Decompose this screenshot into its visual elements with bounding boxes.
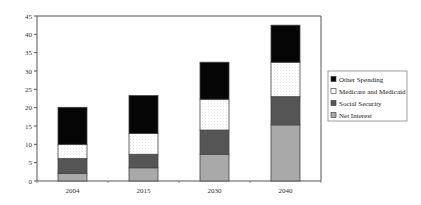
bar-segment-medicare-and-medicaid	[271, 62, 300, 96]
legend-swatch-other-spending	[331, 77, 336, 82]
bar-segment-social-security	[200, 130, 229, 154]
bar-segment-other-spending	[271, 25, 300, 62]
x-tick-label: 2040	[279, 187, 294, 195]
x-tick-label: 2004	[66, 187, 81, 195]
bar-segment-social-security	[271, 97, 300, 125]
y-tick-label: 30	[25, 68, 33, 76]
bar-segment-net-interest	[129, 168, 158, 181]
x-tick-label: 2030	[208, 187, 223, 195]
bar-segment-net-interest	[271, 125, 300, 181]
bar-stack-2015	[129, 96, 158, 181]
legend-label: Other Spending	[339, 76, 384, 84]
legend-label: Medicare and Medicaid	[339, 88, 406, 96]
bar-segment-medicare-and-medicaid	[200, 99, 229, 130]
legend-label: Net Interest	[339, 112, 372, 120]
bar-stack-2004	[58, 107, 87, 181]
bar-stack-2040	[271, 25, 300, 181]
bar-segment-medicare-and-medicaid	[58, 144, 87, 158]
legend-swatch-social-security	[331, 101, 336, 106]
legend-swatch-medicare-and-medicaid	[331, 89, 336, 94]
bar-segment-medicare-and-medicaid	[129, 133, 158, 154]
legend-swatch-net-interest	[331, 113, 336, 118]
y-tick-label: 40	[25, 31, 33, 39]
x-tick-label: 2015	[137, 187, 152, 195]
bar-segment-net-interest	[58, 173, 87, 181]
bar-segment-other-spending	[200, 62, 229, 99]
y-tick-label: 0	[29, 178, 33, 186]
y-tick-label: 25	[25, 86, 33, 94]
y-tick-label: 5	[29, 159, 33, 167]
bar-segment-social-security	[58, 159, 87, 174]
y-tick-label: 35	[25, 49, 33, 57]
bar-stack-2030	[200, 62, 229, 181]
stacked-bar-chart: 051015202530354045 2004201520302040 Othe…	[0, 0, 421, 205]
legend-label: Social Security	[339, 100, 382, 108]
bar-segment-other-spending	[58, 107, 87, 144]
bar-segment-net-interest	[200, 154, 229, 181]
y-tick-label: 20	[25, 104, 33, 112]
bar-segment-other-spending	[129, 96, 158, 134]
y-tick-label: 10	[25, 141, 33, 149]
bar-segment-social-security	[129, 154, 158, 168]
y-tick-label: 45	[25, 13, 33, 21]
y-tick-label: 15	[25, 123, 33, 131]
